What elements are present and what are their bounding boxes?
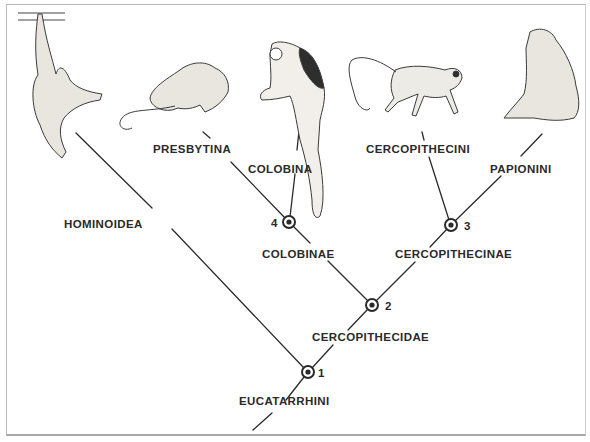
vervet-illustration [349, 58, 462, 116]
langur-illustration [120, 63, 229, 129]
node-number-1: 1 [318, 367, 324, 379]
branch-2-cercopithecinae [376, 262, 415, 301]
taxon-label-cercopithecinae: CERCOPITHECINAE [395, 248, 512, 260]
branch-2-colobinae [328, 261, 368, 301]
root-stem-lower [253, 413, 272, 430]
branch-1-2-upper [348, 309, 368, 330]
branch-cercopithecinae-3 [430, 229, 447, 247]
gibbon-illustration [18, 13, 102, 158]
node-4-marker [283, 216, 295, 228]
branch-colobinae-4 [293, 226, 310, 243]
baboon-illustration [504, 29, 579, 120]
taxon-label-papionini: PAPIONINI [490, 163, 552, 175]
node-number-3: 3 [464, 220, 470, 232]
branch-3-papionini [455, 176, 501, 221]
taxon-label-presbytina: PRESBYTINA [153, 143, 231, 155]
cercopithecini-tip [422, 132, 424, 140]
taxon-label-colobina: COLOBINA [248, 163, 313, 175]
taxon-label-hominoidea: HOMINOIDEA [64, 218, 143, 230]
taxon-label-cercopithecini: CERCOPITHECINI [366, 143, 470, 155]
taxon-label-colobinae: COLOBINAE [262, 248, 335, 260]
branch-4-colobina [290, 174, 295, 217]
node-number-4: 4 [271, 217, 277, 229]
branch-1-2-lower [312, 345, 333, 368]
node-markers [283, 216, 457, 378]
taxon-label-cercopithecidae: CERCOPITHECIDAE [312, 331, 429, 343]
hominoidea-branch-upper [76, 133, 152, 208]
presbytina-tip [203, 132, 210, 138]
papionini-tip [521, 134, 542, 156]
node-1-marker [302, 366, 314, 378]
node-2-marker [366, 299, 378, 311]
node-3-marker [445, 219, 457, 231]
node-number-2: 2 [385, 300, 391, 312]
taxon-label-eucatarrhini: EUCATARRHINI [239, 395, 330, 407]
branch-3-cercopithecini [429, 157, 449, 220]
